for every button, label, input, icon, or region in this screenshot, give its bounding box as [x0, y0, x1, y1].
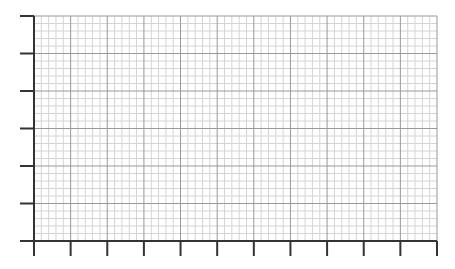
y-axis-ticks	[20, 16, 34, 241]
major-grid	[34, 16, 437, 241]
graph-paper-chart	[0, 0, 455, 269]
x-axis-ticks	[34, 241, 437, 256]
